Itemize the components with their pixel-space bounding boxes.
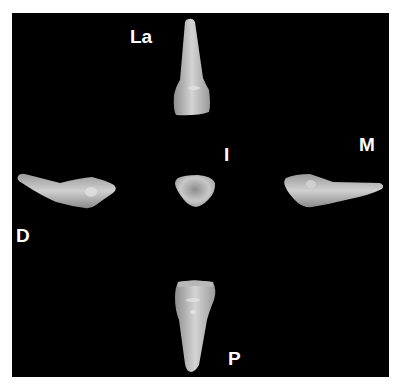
label-mesial: M <box>359 135 375 154</box>
label-labial: La <box>130 27 152 46</box>
tooth-palatal-view <box>175 281 215 373</box>
tooth-incisal-view <box>175 175 215 207</box>
tooth-mesial-view <box>284 174 383 207</box>
label-distal: D <box>16 226 30 245</box>
tooth-labial-view <box>174 19 210 115</box>
label-palatal: P <box>228 349 241 368</box>
tooth-distal-view <box>18 174 116 208</box>
label-incisal: I <box>224 145 229 164</box>
teeth-illustration <box>0 0 393 386</box>
